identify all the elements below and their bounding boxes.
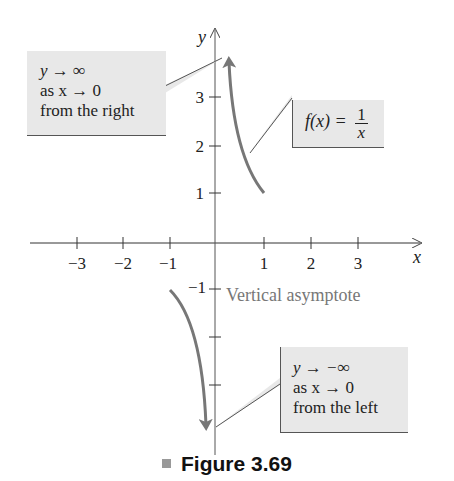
- x-tick-label: 1: [260, 254, 269, 273]
- y-tick-label: 2: [196, 137, 205, 156]
- x-tick-label: −2: [114, 254, 132, 273]
- function-lhs: f(x) =: [305, 111, 351, 131]
- vertical-asymptote-label: Vertical asymptote: [226, 285, 360, 305]
- x-tick-label: 3: [354, 254, 363, 273]
- y-axis-label: y: [196, 27, 206, 47]
- callout-pointer-right: [165, 58, 222, 93]
- y-tick-label: 3: [196, 88, 205, 107]
- y-tick-label: 1: [196, 184, 205, 203]
- left-limit-line2: as x → 0: [293, 378, 408, 398]
- right-limit-line1: y → ∞: [40, 61, 166, 81]
- callout-pointer-left: [216, 378, 280, 427]
- function-fraction: 1x: [355, 106, 368, 141]
- annotation-left-limit: y → −∞ as x → 0 from the left: [280, 347, 408, 433]
- curve-left-branch: [170, 290, 206, 425]
- caption-bullet-icon: [162, 459, 171, 468]
- x-axis-label: x: [412, 247, 421, 267]
- curve-right-branch: [229, 62, 264, 193]
- right-limit-line3: from the right: [40, 101, 166, 121]
- annotation-right-limit: y → ∞ as x → 0 from the right: [27, 51, 166, 136]
- right-limit-line2: as x → 0: [40, 81, 166, 101]
- y-tick-label: −1: [188, 278, 206, 297]
- figure-caption: Figure 3.69: [0, 452, 454, 476]
- x-tick-label: 2: [307, 254, 316, 273]
- left-limit-line3: from the left: [293, 398, 408, 418]
- x-tick-label: −3: [68, 254, 86, 273]
- callout-pointer-function: [250, 95, 292, 152]
- x-tick-label: −1: [159, 254, 177, 273]
- left-limit-line1: y → −∞: [293, 358, 408, 378]
- annotation-function-label: f(x) = 1x: [292, 100, 384, 148]
